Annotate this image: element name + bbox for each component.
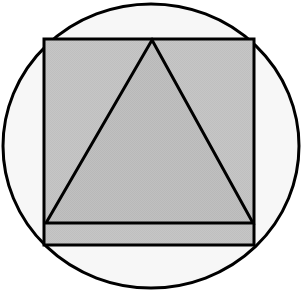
figure-canvas <box>0 0 308 293</box>
geometric-figure <box>0 0 308 293</box>
